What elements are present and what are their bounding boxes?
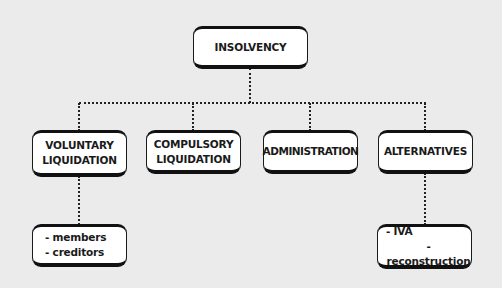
connector-bus (79, 102, 426, 104)
detail-item: - creditors (45, 245, 104, 260)
node-compulsory-liquidation: COMPULSORY LIQUIDATION (146, 130, 241, 174)
node-alternatives: ALTERNATIVES (378, 130, 473, 174)
node-label-line2: LIQUIDATION (42, 153, 117, 168)
node-label: ALTERNATIVES (384, 144, 467, 159)
node-insolvency: INSOLVENCY (193, 26, 308, 69)
connector-alternatives (424, 103, 426, 131)
connector-root (249, 68, 251, 103)
detail-item: - members (45, 230, 106, 245)
node-alternatives-details: - IVA - reconstruction (377, 224, 472, 269)
connector-administration (309, 103, 311, 131)
connector-voluntary-details (78, 176, 80, 225)
node-label: INSOLVENCY (215, 40, 287, 55)
node-label-line2: LIQUIDATION (156, 152, 231, 167)
detail-item: - IVA (386, 224, 412, 239)
node-voluntary-liquidation: VOLUNTARY LIQUIDATION (32, 130, 127, 177)
node-label: ADMINISTRATION (263, 144, 359, 159)
node-label-line1: VOLUNTARY (45, 138, 113, 153)
node-voluntary-details: - members - creditors (32, 224, 127, 267)
connector-compulsory (192, 103, 194, 131)
detail-item: - reconstruction (386, 239, 471, 269)
node-administration: ADMINISTRATION (263, 130, 358, 174)
connector-voluntary (78, 103, 80, 131)
node-label-line1: COMPULSORY (154, 137, 234, 152)
connector-alternatives-details (424, 173, 426, 225)
